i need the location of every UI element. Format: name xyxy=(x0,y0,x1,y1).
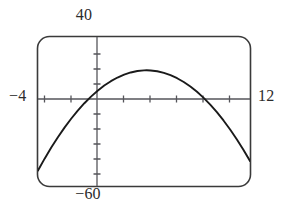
plot-contents xyxy=(38,37,250,186)
graphing-calculator-window: 40 −60 −4 12 xyxy=(0,0,288,213)
parabola-curve xyxy=(38,70,250,170)
screen-border xyxy=(38,37,251,187)
plot-area xyxy=(0,0,288,213)
